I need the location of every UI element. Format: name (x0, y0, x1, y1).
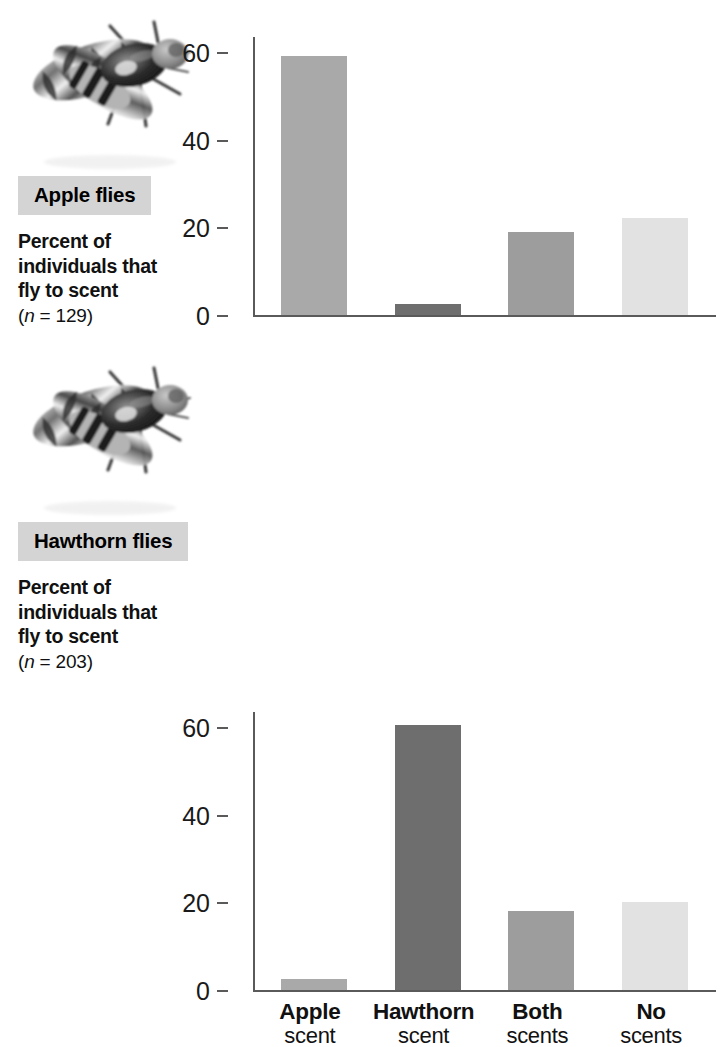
y-axis-line-apple (253, 37, 255, 317)
sample-size-apple: (n = 129) (18, 305, 218, 327)
x-axis-line-apple (253, 315, 716, 317)
x-label-no: Noscents (588, 1000, 714, 1047)
bar-both-scents[interactable] (508, 232, 574, 315)
x-label-main: Hawthorn (361, 1000, 487, 1024)
bar-no-scents[interactable] (622, 218, 688, 315)
bar-apple-scent[interactable] (281, 979, 347, 990)
sample-value: = 203) (35, 651, 93, 672)
sample-value: = 129) (35, 305, 93, 326)
y-tick-40: 40 (217, 815, 228, 817)
species-badge-hawthorn: Hawthorn flies (18, 522, 188, 561)
x-label-both: Bothscents (475, 1000, 601, 1047)
caption-line-2: individuals that (18, 601, 157, 623)
y-tick-0: 0 (217, 990, 228, 992)
sample-n-symbol: n (24, 651, 34, 672)
y-tick-60: 60 (217, 52, 228, 54)
panel-apple-flies: Apple flies Percent of individuals that … (0, 0, 721, 350)
y-tick-0: 0 (217, 315, 228, 317)
y-tick-label-60: 60 (182, 40, 210, 65)
y-tick-label-60: 60 (182, 715, 210, 740)
y-tick-label-40: 40 (182, 128, 210, 153)
caption-column-hawthorn: Hawthorn flies Percent of individuals th… (18, 358, 218, 673)
panel-hawthorn-flies: Hawthorn flies Percent of individuals th… (0, 350, 721, 716)
bar-hawthorn-scent[interactable] (395, 304, 461, 315)
y-tick-label-0: 0 (196, 304, 210, 329)
bar-both-scents[interactable] (508, 911, 574, 990)
y-tick-label-0: 0 (196, 979, 210, 1004)
y-tick-20: 20 (217, 902, 228, 904)
x-label-apple: Applescent (247, 1000, 373, 1047)
y-tick-label-40: 40 (182, 803, 210, 828)
hawthorn-fly-photo (22, 358, 198, 518)
bar-apple-scent[interactable] (281, 56, 347, 315)
y-tick-20: 20 (217, 227, 228, 229)
chart-apple-flies: 0204060 (228, 35, 708, 320)
sample-n-symbol: n (24, 305, 34, 326)
caption-text-hawthorn: Percent of individuals that fly to scent (18, 575, 218, 649)
x-label-sub: scent (247, 1024, 373, 1047)
bar-hawthorn-scent[interactable] (395, 725, 461, 990)
caption-line-3: fly to scent (18, 625, 118, 647)
x-label-sub: scents (475, 1024, 601, 1047)
sample-size-hawthorn: (n = 203) (18, 651, 218, 673)
caption-line-1: Percent of (18, 230, 111, 252)
caption-line-1: Percent of (18, 576, 111, 598)
y-axis-line-hawthorn (253, 712, 255, 992)
y-tick-label-20: 20 (182, 891, 210, 916)
apple-fly-photo (22, 12, 198, 172)
x-label-hawthorn: Hawthornscent (361, 1000, 487, 1047)
x-label-main: Both (475, 1000, 601, 1024)
x-label-main: Apple (247, 1000, 373, 1024)
y-tick-40: 40 (217, 140, 228, 142)
chart-hawthorn-flies: 0204060 ApplescentHawthornscentBothscent… (228, 710, 708, 995)
y-tick-label-20: 20 (182, 216, 210, 241)
caption-line-2: individuals that (18, 255, 157, 277)
x-label-sub: scent (361, 1024, 487, 1047)
x-label-main: No (588, 1000, 714, 1024)
species-badge-apple: Apple flies (18, 176, 151, 215)
y-tick-60: 60 (217, 727, 228, 729)
bar-no-scents[interactable] (622, 902, 688, 990)
caption-line-3: fly to scent (18, 279, 118, 301)
x-axis-line-hawthorn (253, 990, 716, 992)
x-label-sub: scents (588, 1024, 714, 1047)
